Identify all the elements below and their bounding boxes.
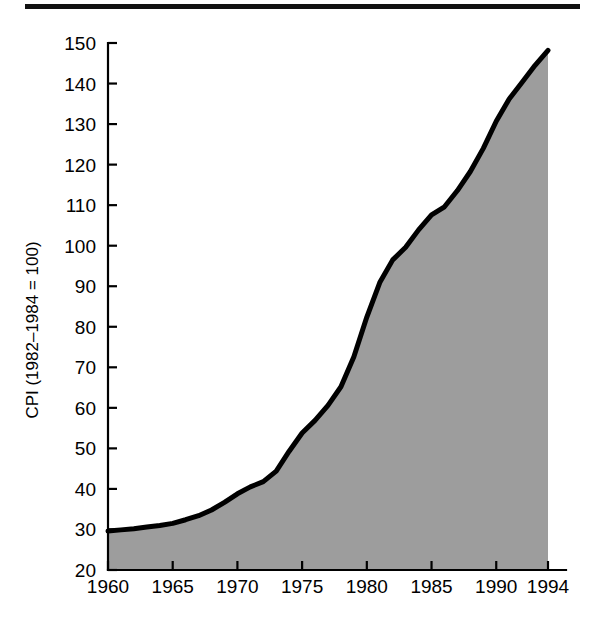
x-tick-label: 1985 [410, 576, 452, 597]
area-fill [108, 50, 548, 570]
x-tick-label: 1980 [346, 576, 388, 597]
y-tick-label: 130 [64, 114, 96, 135]
cpi-area-chart: 2030405060708090100110120130140150 19601… [0, 0, 593, 621]
x-tick-label: 1970 [216, 576, 258, 597]
y-tick-label: 50 [75, 438, 96, 459]
y-tick-label: 110 [66, 195, 96, 216]
y-axis-title: CPI (1982–1984 = 100) [23, 241, 42, 418]
chart-figure: 2030405060708090100110120130140150 19601… [0, 0, 593, 621]
y-tick-label: 70 [75, 357, 96, 378]
y-tick-label: 60 [75, 398, 96, 419]
y-tick-label: 120 [64, 155, 96, 176]
x-tick-label: 1965 [152, 576, 194, 597]
y-tick-label: 90 [75, 276, 96, 297]
y-tick-label: 140 [64, 74, 96, 95]
y-tick-label: 80 [75, 317, 96, 338]
y-tick-label: 150 [64, 33, 96, 54]
x-tick-label: 1990 [475, 576, 517, 597]
y-tick-label: 30 [75, 519, 96, 540]
x-tick-label: 1960 [87, 576, 129, 597]
y-tick-label: 100 [64, 236, 96, 257]
x-tick-label: 1994 [527, 576, 570, 597]
x-tick-label: 1975 [281, 576, 323, 597]
y-tick-label: 40 [75, 479, 96, 500]
